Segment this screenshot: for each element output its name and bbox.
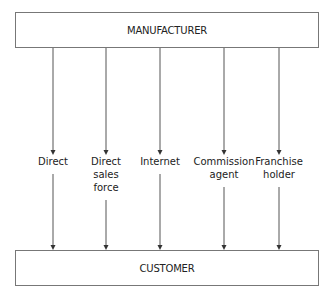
channel-0-lower-arrowhead-icon bbox=[51, 245, 56, 250]
channel-label-line: holder bbox=[244, 168, 314, 181]
channel-1-lower-arrowhead-icon bbox=[104, 245, 109, 250]
channel-3-lower-arrowhead-icon bbox=[222, 245, 227, 250]
channel-4-lower-arrowhead-icon bbox=[277, 245, 282, 250]
channel-2-lower-arrowhead-icon bbox=[158, 245, 163, 250]
channel-arrows bbox=[0, 0, 332, 287]
channel-label: Franchiseholder bbox=[244, 155, 314, 181]
channel-label-line: Franchise bbox=[244, 155, 314, 168]
channel-label: Internet bbox=[125, 155, 195, 168]
channel-label-line: sales bbox=[71, 168, 141, 181]
channel-label-line: force bbox=[71, 181, 141, 194]
channel-label-line: Internet bbox=[125, 155, 195, 168]
